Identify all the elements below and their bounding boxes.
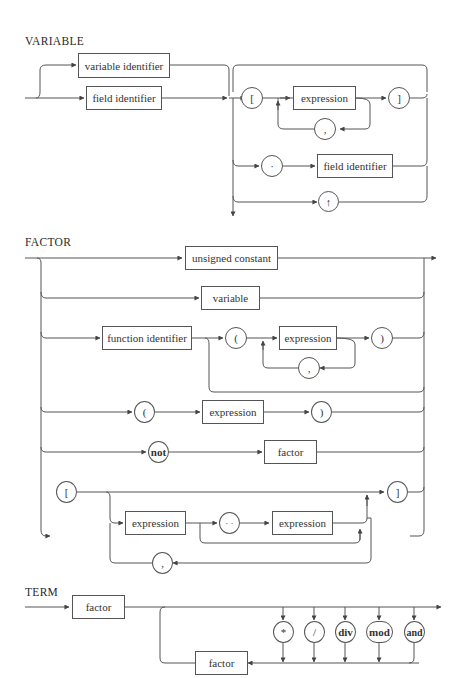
function-identifier-box: function identifier [102, 326, 192, 350]
right-paren-symbol: ) [371, 327, 393, 349]
right-bracket-symbol: ] [387, 481, 408, 503]
and-operator: and [404, 621, 425, 643]
unsigned-constant-box: unsigned constant [185, 246, 278, 270]
left-bracket-symbol: [ [56, 481, 77, 503]
factor-box-2: factor [195, 651, 248, 675]
dot-symbol: · [261, 155, 283, 177]
expression-box-4: expression [272, 511, 333, 535]
comma-symbol-2: , [152, 552, 173, 574]
pointer-symbol: ↑ [318, 191, 339, 212]
comma-symbol: , [314, 118, 336, 140]
multiply-operator: * [273, 621, 294, 643]
factor-box-1: factor [72, 595, 125, 619]
expression-box-2: expression [202, 400, 264, 424]
not-keyword: not [148, 441, 169, 463]
variable-identifier-box: variable identifier [78, 53, 170, 78]
div-operator: div [335, 621, 356, 643]
variable-section-title: VARIABLE [25, 35, 84, 47]
field-identifier-box-2: field identifier [317, 154, 393, 178]
right-paren-symbol-2: ) [311, 401, 332, 423]
expression-box: expression [279, 326, 337, 350]
term-section-title: TERM [25, 586, 58, 598]
left-bracket-symbol: [ [241, 87, 263, 109]
range-symbol: · · [219, 512, 240, 534]
slash-operator: / [304, 621, 325, 643]
expression-box: expression [293, 86, 356, 110]
comma-symbol: , [298, 357, 320, 379]
factor-box: factor [264, 440, 317, 464]
right-bracket-symbol: ] [388, 87, 410, 109]
field-identifier-box: field identifier [86, 86, 162, 110]
left-paren-symbol: ( [225, 327, 247, 349]
expression-box-3: expression [125, 511, 186, 535]
left-paren-symbol-2: ( [134, 401, 155, 423]
mod-operator: mod [366, 621, 393, 643]
variable-box: variable [201, 286, 260, 310]
factor-section-title: FACTOR [25, 236, 71, 248]
